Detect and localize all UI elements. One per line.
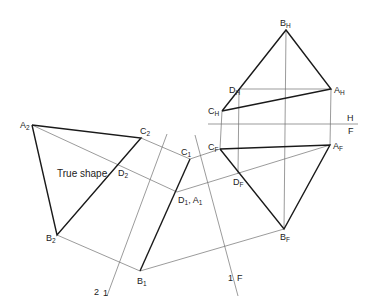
- label-bf: BF: [280, 232, 290, 243]
- true-shape-annotation: True shape: [57, 168, 108, 179]
- triangle-top-view: [222, 30, 331, 111]
- projector-a-f1: [177, 145, 330, 192]
- true-shape-diagram: BH DH AH CH H F CF AF DF BF C1 D1, A1 B1…: [0, 0, 373, 299]
- label-af: AF: [333, 141, 343, 152]
- label-b1: B1: [137, 276, 147, 287]
- label-a2: A2: [20, 120, 30, 131]
- label-ref-1-right: 1: [228, 273, 233, 283]
- projector-b-f1: [140, 229, 284, 271]
- edge-view-1: [140, 159, 190, 271]
- triangle-true-shape: [32, 125, 141, 235]
- label-d1-a1: D1, A1: [178, 195, 203, 206]
- projector-a-hf: [330, 89, 331, 145]
- reference-line-21: [107, 134, 167, 296]
- label-dh: DH: [229, 85, 241, 96]
- label-ref-f-right: F: [237, 273, 243, 283]
- label-ref-1-left: 1: [103, 288, 108, 298]
- projector-a-12: [32, 125, 177, 192]
- projector-d-hf: [238, 89, 239, 174]
- label-c2: C2: [140, 126, 151, 137]
- projector-c-hf: [220, 111, 222, 149]
- label-h: H: [347, 113, 354, 123]
- label-c1: C1: [181, 147, 192, 158]
- label-df: DF: [233, 177, 244, 188]
- label-b2: B2: [46, 233, 56, 244]
- label-f: F: [348, 126, 354, 136]
- label-cf: CF: [208, 142, 219, 153]
- projector-b-hf: [284, 30, 286, 229]
- label-ch: CH: [208, 106, 220, 117]
- label-ah: AH: [334, 85, 345, 96]
- reference-line-1f: [195, 135, 238, 296]
- triangle-front-view: [220, 145, 330, 229]
- label-bh: BH: [280, 18, 291, 29]
- label-ref-2: 2: [94, 287, 99, 297]
- label-d2: D2: [118, 168, 129, 179]
